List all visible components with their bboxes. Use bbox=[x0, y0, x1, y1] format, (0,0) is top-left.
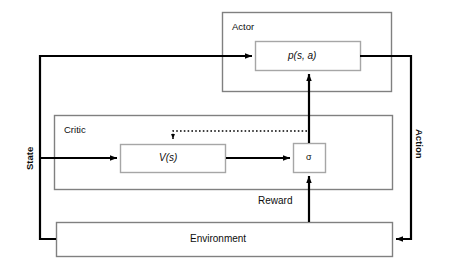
reward-edge-label: Reward bbox=[258, 196, 292, 206]
action-edge-label: Action bbox=[415, 129, 425, 159]
environment-node-label: Environment bbox=[190, 234, 246, 244]
sigma-node-label: σ bbox=[306, 153, 312, 162]
state-edge-label: State bbox=[25, 147, 35, 170]
policy-node-label: p(s, a) bbox=[288, 51, 316, 61]
actor-group-label: Actor bbox=[232, 22, 254, 32]
diagram-vector-layer bbox=[0, 0, 449, 271]
critic-group-label: Critic bbox=[64, 125, 86, 135]
value-node-label: V(s) bbox=[159, 153, 177, 163]
diagram-canvas: Actor Critic p(s, a) V(s) σ Environment … bbox=[0, 0, 449, 271]
